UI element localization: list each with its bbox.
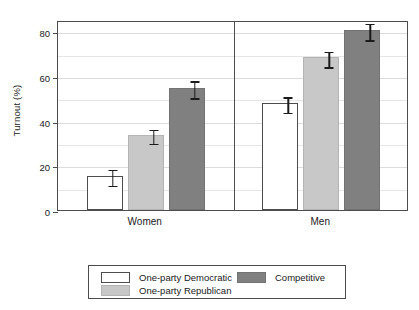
error-bar — [194, 81, 195, 98]
error-bar-cap-upper — [108, 170, 117, 171]
x-tick-label-women: Women — [128, 216, 162, 227]
legend-label: One-party Democratic — [139, 272, 232, 283]
error-bar — [369, 24, 370, 41]
y-tick-label: 40 — [39, 117, 50, 128]
panel-divider — [234, 22, 235, 210]
legend-item: One-party Democratic — [101, 272, 232, 283]
error-bar-cap-lower — [325, 67, 334, 68]
legend-label: One-party Republican — [139, 285, 231, 296]
error-bar-cap-lower — [366, 40, 375, 41]
error-bar-cap-upper — [190, 81, 199, 82]
y-tick-label: 60 — [39, 72, 50, 83]
turnout-bar-chart: Turnout (%) 020406080 WomenMen One-party… — [0, 0, 419, 310]
legend-label: Competitive — [275, 272, 325, 283]
bar — [87, 176, 123, 210]
bar — [344, 30, 380, 210]
error-bar-cap-lower — [149, 144, 158, 145]
error-bar-cap-lower — [108, 186, 117, 187]
error-bar-cap-upper — [284, 97, 293, 98]
y-tick-mark — [53, 123, 58, 124]
error-bar — [153, 130, 154, 144]
legend-swatch — [101, 285, 130, 296]
y-tick-label: 80 — [39, 28, 50, 39]
error-bar — [287, 97, 288, 113]
chart-legend: One-party DemocraticOne-party Republican… — [88, 265, 346, 299]
y-tick-label: 0 — [45, 207, 50, 218]
error-bar — [328, 52, 329, 68]
x-tick-label-men: Men — [311, 216, 330, 227]
error-bar-cap-lower — [284, 113, 293, 114]
bar — [169, 88, 205, 210]
bar — [303, 57, 339, 210]
y-tick-mark — [53, 78, 58, 79]
y-axis-title: Turnout (%) — [11, 51, 22, 171]
y-tick-mark — [53, 167, 58, 168]
error-bar — [112, 170, 113, 186]
legend-swatch — [237, 272, 266, 283]
y-tick-mark — [53, 212, 58, 213]
error-bar-cap-upper — [149, 130, 158, 131]
legend-item: Competitive — [237, 272, 325, 283]
legend-swatch — [101, 272, 130, 283]
error-bar-cap-upper — [325, 52, 334, 53]
error-bar-cap-upper — [366, 24, 375, 25]
y-tick-mark — [53, 33, 58, 34]
legend-item: One-party Republican — [101, 285, 231, 296]
bar — [128, 135, 164, 210]
error-bar-cap-lower — [190, 98, 199, 99]
bar — [262, 103, 298, 210]
plot-area: 020406080 — [57, 21, 408, 211]
y-tick-label: 20 — [39, 162, 50, 173]
